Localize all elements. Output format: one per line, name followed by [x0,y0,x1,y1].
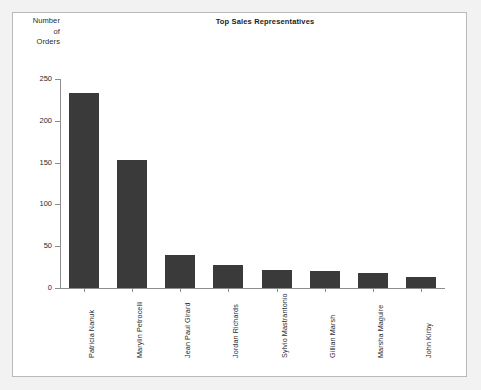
x-axis-category-label: Marsha Maguire [376,305,385,358]
x-tick-mark [373,288,374,292]
bar[interactable] [117,160,147,288]
y-tick-label: 250 [22,75,52,83]
x-axis-category-label: Marylin Petrocelli [135,301,144,358]
x-tick-mark [84,288,85,292]
x-axis-category-label: Sylvio Mastrantonio [280,293,289,358]
y-tick-mark [55,163,60,164]
bar[interactable] [310,271,340,288]
y-tick-mark [55,79,60,80]
x-axis-category-label: Patricia Nanuk [87,310,96,358]
x-axis-category-label: John Kirby [424,323,433,358]
bar[interactable] [69,93,99,288]
y-tick-mark [55,121,60,122]
x-axis-line [60,288,445,289]
x-axis-category-label: Gillian Marsh [328,315,337,358]
x-tick-mark [180,288,181,292]
y-tick-label: 100 [22,200,52,208]
y-axis-line [60,79,61,289]
y-tick-label: 200 [22,117,52,125]
x-axis-category-label: Jean Paul Girard [183,302,192,358]
x-tick-mark [277,288,278,292]
y-tick-label: 50 [22,242,52,250]
plot-area: 050100150200250 Patricia NanukMarylin Pe… [0,0,481,390]
y-tick-mark [55,288,60,289]
x-tick-mark [325,288,326,292]
bar[interactable] [262,270,292,288]
bar[interactable] [406,277,436,288]
x-tick-mark [228,288,229,292]
y-tick-mark [55,246,60,247]
y-tick-label: 0 [22,284,52,292]
x-tick-mark [132,288,133,292]
x-axis-category-label: Jordan Richards [231,304,240,358]
bar[interactable] [165,255,195,288]
y-tick-mark [55,204,60,205]
bar[interactable] [213,265,243,288]
bar[interactable] [358,273,388,288]
chart-page: Number of Orders Top Sales Representativ… [0,0,481,390]
y-tick-label: 150 [22,159,52,167]
x-tick-mark [421,288,422,292]
